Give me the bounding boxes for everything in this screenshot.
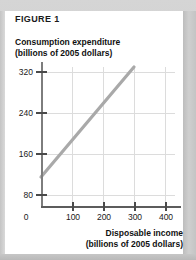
consumption-function-line <box>41 62 181 212</box>
x-tick-label-100: 100 <box>61 212 85 222</box>
y-tick-240 <box>36 112 47 114</box>
x-tick-label-200: 200 <box>92 212 116 222</box>
x-tick-300 <box>134 202 136 211</box>
x-tick-label-300: 300 <box>123 212 147 222</box>
x-tick-200 <box>103 202 105 211</box>
x-axis-line <box>41 206 181 208</box>
x-tick-400 <box>165 202 167 211</box>
y-tick-80 <box>36 194 47 196</box>
x-axis-title-line2: (billions of 2005 dollars) <box>86 239 183 250</box>
y-tick-label-80: 80 <box>24 190 33 200</box>
figure-container: FIGURE 1 Consumption expenditure (billio… <box>0 0 196 260</box>
page-right-gutter <box>183 11 196 254</box>
y-tick-320 <box>36 71 47 73</box>
y-tick-label-160: 160 <box>19 149 33 159</box>
y-tick-160 <box>36 153 47 155</box>
y-tick-label-320: 320 <box>19 67 33 77</box>
y-axis-line <box>41 62 43 208</box>
series-line-consumption <box>41 67 134 177</box>
x-tick-label-0: 0 <box>14 212 38 222</box>
x-tick-label-400: 400 <box>154 212 178 222</box>
x-axis-title: Disposable income (billions of 2005 doll… <box>86 228 183 250</box>
y-tick-label-240: 240 <box>19 108 33 118</box>
x-tick-100 <box>72 202 74 211</box>
x-axis-title-line1: Disposable income <box>86 228 183 239</box>
